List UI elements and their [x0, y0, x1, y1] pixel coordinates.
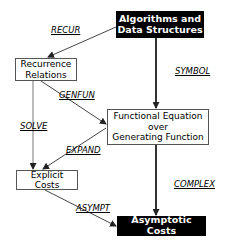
node-algorithms: Algorithms and Data Structures: [116, 11, 204, 38]
edge-label-genfun: GENFUN: [59, 90, 95, 100]
edge-label-symbol: SYMBOL: [175, 66, 210, 76]
node-functional: Functional Equation over Generating Func…: [107, 109, 209, 145]
edge-label-recur: RECUR: [51, 25, 80, 35]
edge-label-complex: COMPLEX: [174, 179, 215, 189]
edge-label-solve: SOLVE: [20, 121, 47, 131]
edge-label-expand: EXPAND: [66, 145, 101, 155]
node-explicit: Explicit Costs: [16, 170, 78, 190]
node-algorithms-label: Algorithms and Data Structures: [117, 14, 202, 36]
node-recurrence-label: Recurrence Relations: [21, 59, 72, 80]
node-functional-label: Functional Equation over Generating Func…: [112, 111, 204, 142]
node-recurrence: Recurrence Relations: [15, 58, 77, 81]
edge-genfun: [41, 81, 106, 124]
node-asymptotic-label: Asymptotic Costs: [117, 215, 206, 237]
node-asymptotic: Asymptotic Costs: [117, 216, 206, 236]
edge-label-asympt: ASYMPT: [76, 203, 110, 213]
node-explicit-label: Explicit Costs: [17, 170, 77, 191]
